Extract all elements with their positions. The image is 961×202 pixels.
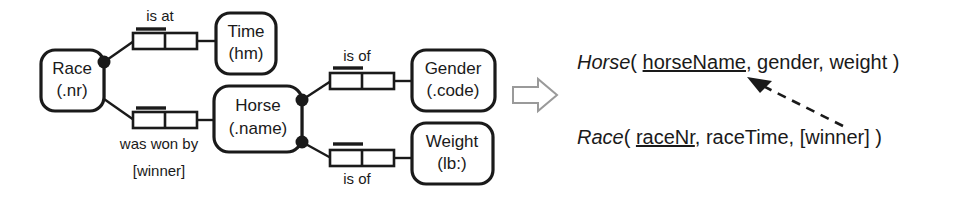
- relation-horse-sep-2: ,: [818, 51, 829, 73]
- relation-horse-sep-1: ,: [746, 51, 757, 73]
- junction-dot-race: [98, 56, 111, 69]
- predicate-label-is-of-weight: is of: [343, 170, 371, 187]
- connector-race-to-waswonby: [104, 99, 134, 120]
- figure-canvas: Race (.nr) Time (hm) Horse (.name) Gende…: [0, 0, 961, 202]
- relational-schema: Horse( horseName, gender, weight ) Race(…: [577, 51, 899, 148]
- entity-time-name: Time: [227, 22, 264, 41]
- entity-gender-refmode: (.code): [427, 81, 480, 100]
- entity-type-horse[interactable]: Horse (.name): [214, 86, 302, 152]
- fk-arrow-head: [747, 77, 772, 93]
- predicate-label-is-at: is at: [146, 7, 174, 24]
- relation-race-column-racetime: raceTime: [706, 126, 789, 148]
- entity-type-weight[interactable]: Weight (lb:): [412, 123, 493, 184]
- winner-to-horsename-fk-arrow-icon: [747, 77, 843, 126]
- predicate-label-is-of-gender: is of: [343, 47, 371, 64]
- entity-weight-name: Weight: [426, 132, 479, 151]
- relation-horse-name: Horse: [577, 51, 630, 73]
- block-arrow-right-icon: [513, 79, 557, 111]
- entity-race-refmode: (.nr): [56, 81, 87, 100]
- entity-horse-name: Horse: [235, 96, 280, 115]
- junction-dot-horse-top: [296, 94, 309, 107]
- relation-race-close-paren: ): [870, 126, 882, 148]
- relation-horse-open-paren: (: [630, 51, 642, 73]
- entity-type-time[interactable]: Time (hm): [216, 13, 276, 74]
- entity-type-race[interactable]: Race (.nr): [41, 50, 104, 111]
- role-name-label-winner: [winner]: [133, 162, 186, 179]
- fk-arrow-line: [761, 85, 843, 126]
- orm-to-relational-figure: Race (.nr) Time (hm) Horse (.name) Gende…: [0, 0, 961, 202]
- relation-race-table[interactable]: Race( raceNr, raceTime, [winner] ): [577, 126, 882, 148]
- relation-race-sep-2: ,: [789, 126, 800, 148]
- fact-type-race-is-at-time[interactable]: is at: [133, 7, 197, 49]
- relation-race-name: Race: [577, 126, 624, 148]
- entity-horse-refmode: (.name): [229, 119, 288, 138]
- relation-race-sep-1: ,: [695, 126, 706, 148]
- relation-race-primary-key: raceNr: [636, 126, 696, 148]
- relation-horse-primary-key: horseName: [643, 51, 746, 73]
- entity-time-refmode: (hm): [229, 44, 264, 63]
- entity-gender-name: Gender: [425, 59, 482, 78]
- relation-horse-close-paren: ): [887, 51, 899, 73]
- fact-type-weight-is-of-horse[interactable]: is of: [330, 144, 394, 187]
- relation-horse-column-gender: gender: [757, 51, 820, 73]
- fact-type-gender-is-of-horse[interactable]: is of: [330, 47, 394, 89]
- block-arrow-shape: [513, 79, 557, 111]
- junction-dot-horse-bottom: [296, 136, 309, 149]
- entity-weight-refmode: (lb:): [437, 154, 466, 173]
- relation-race-column-winner: [winner]: [800, 126, 870, 148]
- entity-race-name: Race: [52, 59, 92, 78]
- entity-type-gender[interactable]: Gender (.code): [412, 50, 495, 111]
- relation-horse-column-weight: weight: [828, 51, 887, 73]
- relation-horse-table[interactable]: Horse( horseName, gender, weight ): [577, 51, 899, 73]
- relation-race-open-paren: (: [624, 126, 636, 148]
- predicate-label-was-won-by: was won by: [119, 135, 199, 152]
